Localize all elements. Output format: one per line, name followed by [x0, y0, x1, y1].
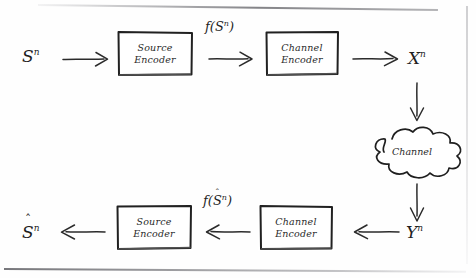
arrow-channel-out	[352, 50, 404, 68]
block-label-line1: Channel	[275, 216, 316, 228]
arrow-x-to-cloud	[404, 82, 430, 124]
arrow-y-to-decoder	[348, 223, 400, 241]
label-channel-output: Yn	[406, 222, 423, 242]
arrow-source-in	[62, 50, 114, 68]
block-label-line1: Source	[137, 42, 172, 54]
arrow-channel-to-source	[200, 223, 252, 241]
block-label-line2: Encoder	[281, 54, 323, 66]
hat-accent: ˆ	[215, 188, 220, 197]
block-channel-cloud[interactable]: Channel	[364, 122, 470, 184]
block-channel-encoder-top[interactable]: Channel Encoder	[264, 30, 340, 77]
hat-accent: ˆ	[25, 214, 31, 226]
label-channel-input: Xn	[408, 48, 426, 68]
label-source-input: Sn	[22, 46, 39, 66]
paper-edge-top	[38, 4, 438, 11]
block-label-line2: Encoder	[134, 54, 176, 66]
label-source-decoded-input: f(ˆSn)	[203, 193, 232, 208]
block-source-encoder-bottom[interactable]: Source Encoder	[115, 204, 193, 251]
block-channel-encoder-bottom[interactable]: Channel Encoder	[258, 204, 334, 251]
paper-edge-bottom	[4, 268, 466, 273]
block-label-line2: Encoder	[275, 228, 317, 240]
block-source-encoder-top[interactable]: Source Encoder	[116, 30, 194, 77]
label-source-encoded: f(Sn)	[205, 19, 234, 34]
cloud-label: Channel	[392, 146, 432, 157]
block-label-line1: Source	[136, 216, 171, 228]
diagram-canvas: Sn Source Encoder f(Sn) Channel En	[0, 0, 476, 278]
arrow-source-to-channel	[208, 50, 258, 68]
label-source-output: ˆSn	[22, 222, 39, 242]
block-label-line2: Encoder	[133, 228, 175, 240]
arrow-cloud-to-y	[404, 183, 430, 225]
block-label-line1: Channel	[281, 42, 322, 54]
arrow-source-out	[55, 223, 107, 241]
